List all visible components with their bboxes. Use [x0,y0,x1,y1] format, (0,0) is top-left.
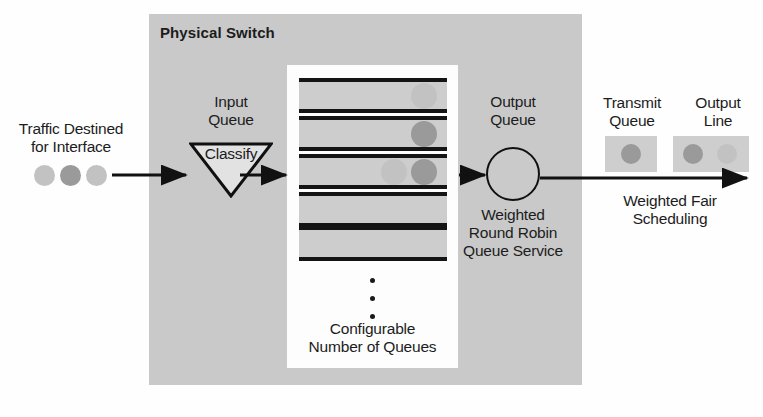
source-packet [34,165,55,186]
packet [717,144,737,164]
traffic-source-label-line1: Traffic Destined [6,120,136,138]
source-packet [60,165,81,186]
packet [683,144,703,164]
queued-packet [411,83,437,109]
output-line-label-line1: Output [680,94,756,112]
classify-label: Classify [189,145,273,163]
output-queue-circle [486,147,540,201]
ellipsis-dot [370,278,375,283]
queue-row [299,78,447,113]
output-queue-label-line2: Queue [467,111,559,129]
traffic-source-label-line2: for Interface [6,138,136,156]
input-queue-label-line1: Input [185,93,277,111]
wrr-label-line1: Weighted [455,206,571,224]
queued-packet [411,159,437,185]
physical-switch-title: Physical Switch [160,24,275,42]
configurable-label-line1: Configurable [287,320,458,338]
output-queue-label-line1: Output [467,93,559,111]
wrr-label-line3: Queue Service [445,242,581,260]
diagram-canvas: Physical Switch Traffic Destined for Int… [0,0,763,417]
queued-packet [381,159,407,185]
queued-packet [411,121,437,147]
transmit-queue-box [605,136,657,172]
ellipsis-dot [370,296,375,301]
queue-row [299,226,447,261]
queue-row [299,154,447,189]
packet [621,144,641,164]
queue-row [299,192,447,227]
source-packet [86,165,107,186]
input-queue-label-line2: Queue [185,111,277,129]
wfs-label-line2: Scheduling [590,210,750,228]
output-line-box [673,136,749,172]
ellipsis-dot [370,314,375,319]
wrr-label-line2: Round Robin [448,224,578,242]
output-line-label-line2: Line [680,112,756,130]
wfs-label-line1: Weighted Fair [590,192,750,210]
configurable-label-line2: Number of Queues [287,338,458,356]
transmit-queue-label-line2: Queue [589,112,675,130]
queue-row [299,116,447,151]
transmit-queue-label-line1: Transmit [589,94,675,112]
